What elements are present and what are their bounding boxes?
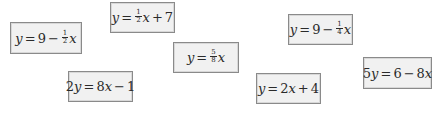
lhs-variable: y bbox=[74, 79, 81, 94]
constant: 4 bbox=[311, 81, 319, 96]
variable: x bbox=[69, 31, 76, 46]
equation-card-f[interactable]: y = 2 x + 4 bbox=[256, 73, 321, 104]
coefficient: 8 bbox=[417, 66, 425, 81]
variable: x bbox=[289, 81, 296, 96]
denominator: 8 bbox=[211, 57, 215, 64]
denominator: 4 bbox=[337, 29, 341, 36]
constant: 1 bbox=[127, 79, 135, 94]
variable: x bbox=[218, 50, 225, 65]
equation-card-g[interactable]: 5 y = 6 − 8 x bbox=[363, 57, 432, 89]
lhs-variable: y bbox=[290, 22, 297, 37]
equals-sign: = bbox=[299, 22, 310, 37]
denominator: 2 bbox=[136, 17, 140, 24]
equation-card-e[interactable]: 2 y = 8 x − 1 bbox=[68, 71, 133, 102]
operator: − bbox=[404, 66, 415, 81]
operator: + bbox=[152, 10, 163, 25]
equation-card-b[interactable]: y = 1 2 x + 7 bbox=[110, 2, 175, 33]
lhs-variable: y bbox=[15, 31, 22, 46]
constant: 6 bbox=[393, 66, 401, 81]
constant: 7 bbox=[165, 10, 173, 25]
lhs-variable: y bbox=[187, 50, 194, 65]
equals-sign: = bbox=[25, 31, 36, 46]
coefficient: 2 bbox=[280, 81, 288, 96]
variable: x bbox=[105, 79, 112, 94]
equation-card-c[interactable]: y = 5 8 x bbox=[173, 42, 239, 73]
equals-sign: = bbox=[267, 81, 278, 96]
fraction: 5 8 bbox=[210, 49, 216, 64]
operator: + bbox=[298, 81, 309, 96]
constant: 9 bbox=[38, 31, 46, 46]
equals-sign: = bbox=[121, 10, 132, 25]
variable: x bbox=[143, 10, 150, 25]
operator: − bbox=[322, 22, 333, 37]
fraction: 1 2 bbox=[62, 30, 68, 45]
equals-sign: = bbox=[83, 79, 94, 94]
lhs-coefficient: 2 bbox=[66, 79, 74, 94]
variable: x bbox=[344, 22, 351, 37]
coefficient: 8 bbox=[96, 79, 104, 94]
fraction: 1 4 bbox=[336, 21, 342, 36]
lhs-coefficient: 5 bbox=[363, 66, 371, 81]
fraction: 1 2 bbox=[135, 9, 141, 24]
lhs-variable: y bbox=[112, 10, 119, 25]
equals-sign: = bbox=[196, 50, 207, 65]
equals-sign: = bbox=[380, 66, 391, 81]
equation-card-a[interactable]: y = 9 − 1 2 x bbox=[10, 22, 82, 54]
denominator: 2 bbox=[63, 38, 67, 45]
lhs-variable: y bbox=[258, 81, 265, 96]
operator: − bbox=[48, 31, 59, 46]
equation-card-d[interactable]: y = 9 − 1 4 x bbox=[288, 14, 353, 45]
variable: x bbox=[425, 66, 432, 81]
constant: 9 bbox=[312, 22, 320, 37]
operator: − bbox=[114, 79, 125, 94]
lhs-variable: y bbox=[371, 66, 378, 81]
